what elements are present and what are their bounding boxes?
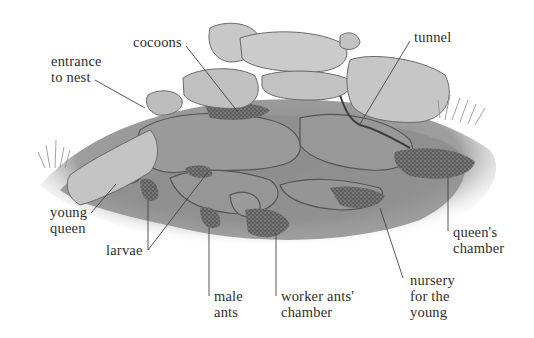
stone-small [340,33,360,50]
label-male-ants: male ants [214,288,243,320]
stone-right-large [347,56,449,122]
label-young-queen: young queen [50,204,87,236]
stone-mid [262,71,351,100]
label-worker-ants-chamber: worker ants' chamber [281,288,354,320]
stone-top-2 [240,32,347,72]
entrance-stone [146,91,182,115]
label-entrance-to-nest: entrance to nest [51,53,102,85]
label-queens-chamber: queen's chamber [453,224,504,256]
leader-entrance [95,80,145,108]
label-cocoons: cocoons [133,34,182,50]
label-nursery-for-the-young: nursery for the young [410,272,455,320]
label-tunnel: tunnel [414,29,451,45]
label-larvae: larvae [106,242,143,258]
stone-mid-left [183,69,258,109]
